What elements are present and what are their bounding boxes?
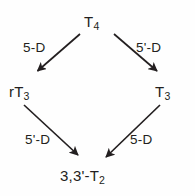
deiodination-pathway-diagram: T4 rT3 T3 3,3'-T2 5-D 5'-D 5'-D 5-D [0,0,195,196]
edge-label-rt3-t2: 5'-D [25,133,50,147]
edge-label-t3-t2: 5-D [130,133,152,147]
node-rt3-base: rT [9,83,24,100]
edge-t3-to-t2 [106,105,160,157]
node-rt3: rT3 [9,84,29,99]
edge-label-t4-rt3: 5-D [23,41,45,55]
node-t3-base: T [155,83,164,100]
node-t3-subscript: 3 [164,90,170,102]
node-rt3-subscript: 3 [24,90,30,102]
node-t2-subscript: 2 [99,174,105,186]
node-t4-base: T [84,13,93,30]
node-t4-subscript: 4 [93,20,99,32]
node-t4: T4 [84,14,99,29]
node-t2: 3,3'-T2 [60,168,105,183]
edge-label-t4-t3: 5'-D [136,41,161,55]
node-t3: T3 [155,84,170,99]
edge-rt3-to-t2 [24,105,78,155]
node-t2-base: 3,3'-T [60,167,99,184]
